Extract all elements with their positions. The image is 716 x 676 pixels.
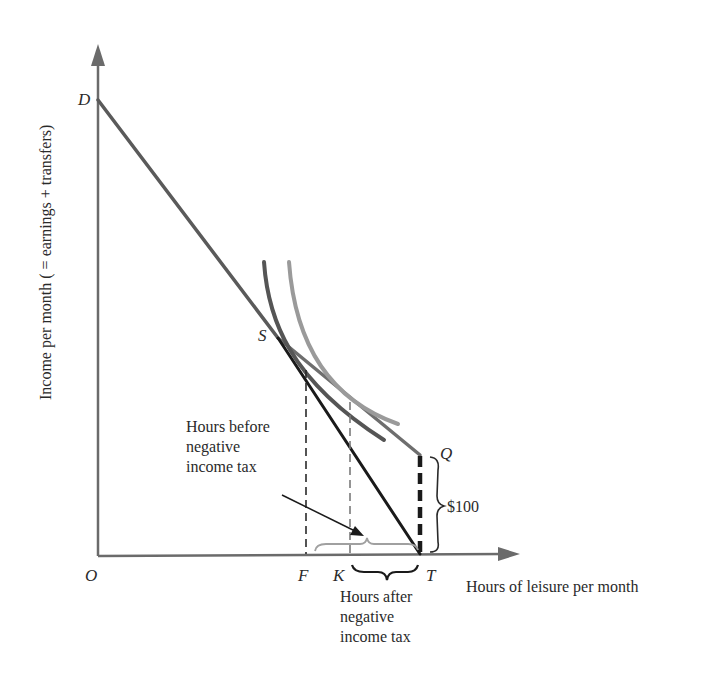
point-label-S: S — [258, 326, 267, 345]
transfer-brace — [430, 457, 444, 552]
hours-after-brace — [352, 565, 418, 580]
point-label-F: F — [298, 566, 308, 585]
point-label-D: D — [78, 90, 90, 109]
diagram-canvas — [0, 0, 716, 676]
indifference-curve-low — [264, 262, 384, 440]
arrowhead-icon — [350, 526, 364, 536]
x-axis — [98, 547, 520, 561]
y-axis-label: Income per month ( = earnings + transfer… — [37, 125, 55, 400]
point-label-T: T — [426, 566, 435, 585]
hours-before-brace — [315, 538, 418, 551]
budget-line-with-nit — [98, 100, 420, 455]
point-label-O: O — [85, 566, 97, 585]
budget-line-original — [278, 338, 420, 554]
transfer-amount-label: $100 — [447, 497, 479, 516]
x-axis-label: Hours of leisure per month — [466, 577, 638, 596]
y-axis-arrow-icon — [91, 44, 105, 66]
annotation-arrow — [282, 495, 364, 536]
point-label-K: K — [333, 566, 344, 585]
hours-after-annotation: Hours after negative income tax — [340, 587, 412, 647]
y-axis — [91, 44, 105, 556]
negative-income-tax-diagram: Income per month ( = earnings + transfer… — [0, 0, 716, 676]
x-axis-arrow-icon — [498, 547, 520, 561]
hours-before-annotation: Hours before negative income tax — [186, 417, 270, 477]
point-label-Q: Q — [440, 444, 452, 463]
